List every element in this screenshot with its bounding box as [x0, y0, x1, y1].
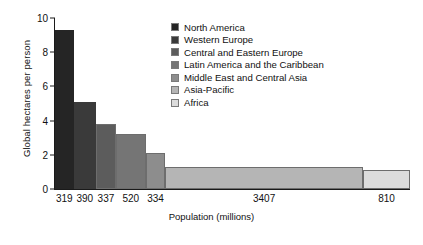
legend-item: Latin America and the Caribbean [171, 59, 324, 72]
legend-swatch-icon [171, 23, 179, 31]
legend-swatch-icon [171, 36, 179, 44]
x-tick-label: 337 [98, 193, 115, 204]
legend-swatch-icon [171, 99, 179, 107]
x-tick-label: 334 [147, 193, 164, 204]
bar-central-and-eastern-europe [96, 124, 116, 189]
legend-item: North America [171, 21, 324, 34]
legend-label: Asia-Pacific [184, 85, 234, 95]
legend-label: Africa [184, 98, 209, 108]
y-tick-label: 2 [26, 149, 48, 160]
legend-swatch-icon [171, 74, 179, 82]
legend-label: Central and Eastern Europe [184, 48, 303, 58]
bar-asia-pacific [165, 167, 363, 189]
bar-chart: Global hectares per person 0246810 31939… [0, 0, 423, 245]
y-tick-label: 0 [26, 184, 48, 195]
legend-swatch-icon [171, 86, 179, 94]
x-tick-label: 810 [378, 193, 395, 204]
legend-label: North America [184, 23, 245, 33]
y-tick-label: 10 [26, 13, 48, 24]
bar-africa [363, 170, 410, 189]
legend-label: Latin America and the Caribbean [184, 60, 324, 70]
legend-item: Central and Eastern Europe [171, 46, 324, 59]
legend-item: Middle East and Central Asia [171, 71, 324, 84]
legend-item: Western Europe [171, 34, 324, 47]
x-tick-label: 319 [56, 193, 73, 204]
x-axis-line [54, 189, 410, 190]
y-tick-label: 8 [26, 47, 48, 58]
x-tick-label: 3407 [253, 193, 275, 204]
legend-item: Asia-Pacific [171, 84, 324, 97]
x-tick-label: 520 [122, 193, 139, 204]
legend-swatch-icon [171, 48, 179, 56]
legend-item: Africa [171, 97, 324, 110]
bar-north-america [55, 30, 74, 189]
x-tick-label: 390 [76, 193, 93, 204]
bar-western-europe [74, 102, 97, 189]
y-tick-label: 6 [26, 81, 48, 92]
chart-legend: North AmericaWestern EuropeCentral and E… [171, 21, 324, 109]
x-axis-title: Population (millions) [0, 211, 423, 222]
y-tick-label: 4 [26, 115, 48, 126]
legend-label: Middle East and Central Asia [184, 73, 307, 83]
legend-swatch-icon [171, 61, 179, 69]
legend-label: Western Europe [184, 35, 253, 45]
bar-middle-east-and-central-asia [146, 153, 165, 189]
bar-latin-america-and-the-caribbean [116, 134, 146, 189]
